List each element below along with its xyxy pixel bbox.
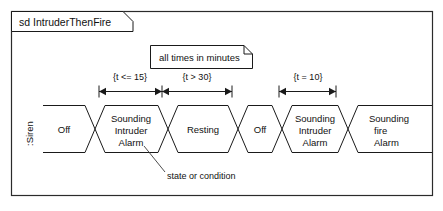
svg-text:Alarm: Alarm <box>303 137 328 148</box>
constraint-label: {t = 10} <box>294 72 323 82</box>
timing-diagram-canvas: sd IntruderThenFire all times in minutes… <box>0 0 443 211</box>
constraint-label: {t > 30} <box>183 72 212 82</box>
svg-text:Alarm: Alarm <box>374 137 399 148</box>
svg-text:Resting: Resting <box>187 124 219 135</box>
annotation-text: state or condition <box>167 171 236 181</box>
svg-text:Intruder: Intruder <box>115 125 148 136</box>
lifeline-label: :Siren <box>24 121 35 146</box>
diagram-frame <box>12 12 433 196</box>
constraint-label: {t <= 15} <box>113 72 147 82</box>
state-label: Sounding Intruder Alarm <box>111 113 151 148</box>
svg-text:Off: Off <box>58 124 71 135</box>
state-transition-crossing <box>228 106 248 153</box>
constraint-arrow <box>99 86 162 98</box>
svg-text:Sounding: Sounding <box>369 113 409 124</box>
frame-name-label: sd IntruderThenFire <box>19 16 111 28</box>
note-text: all times in minutes <box>159 52 240 63</box>
state-label: Sounding Intruder Alarm <box>295 113 335 148</box>
state-label: Off <box>254 124 267 135</box>
state-transition-crossing <box>338 106 358 153</box>
svg-text:Sounding: Sounding <box>111 113 151 124</box>
state-label: Resting <box>187 124 219 135</box>
svg-text:Off: Off <box>254 124 267 135</box>
state-transition-crossing <box>158 106 178 153</box>
timing-constraint-arrows <box>99 86 336 98</box>
svg-text:Intruder: Intruder <box>299 125 332 136</box>
state-transition-crossing <box>85 106 105 153</box>
annotation-leader-line <box>144 146 165 172</box>
state-transition-crossing <box>272 106 292 153</box>
svg-text:Sounding: Sounding <box>295 113 335 124</box>
state-label: Sounding fire Alarm <box>369 113 409 148</box>
state-label: Off <box>58 124 71 135</box>
svg-text:fire: fire <box>374 125 387 136</box>
constraint-arrow <box>162 86 232 98</box>
constraint-arrow <box>279 86 336 98</box>
svg-text:Alarm: Alarm <box>119 137 144 148</box>
